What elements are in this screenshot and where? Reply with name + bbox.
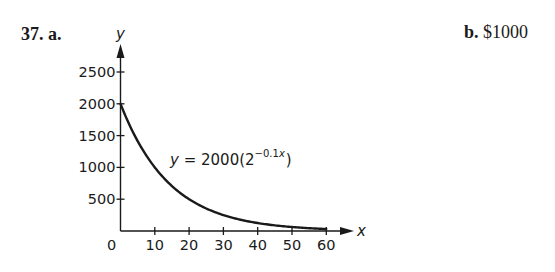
x-axis-arrow-icon xyxy=(340,227,354,235)
equation-label: y = 2000(2−0.1x) xyxy=(169,148,292,169)
y-tick-label: 1000 xyxy=(79,159,116,175)
origin-label: 0 xyxy=(107,237,116,253)
y-axis-ticks: 5001000150020002500 xyxy=(79,64,125,207)
x-tick-label: 20 xyxy=(180,237,198,253)
exponential-decay-chart: y 5001000150020002500 x 0 102030405060 y… xyxy=(0,0,555,272)
y-axis-label: y xyxy=(115,25,126,43)
y-axis: y 5001000150020002500 xyxy=(79,25,126,231)
y-tick-label: 2500 xyxy=(79,64,116,80)
y-tick-label: 1500 xyxy=(79,128,116,144)
y-tick-label: 500 xyxy=(88,191,116,207)
equation-body: = 2000(2 xyxy=(179,151,255,169)
equation-exponent: −0.1x xyxy=(255,148,285,159)
x-tick-label: 10 xyxy=(146,237,164,253)
y-tick-label: 2000 xyxy=(79,96,116,112)
y-axis-arrow-icon xyxy=(117,44,125,58)
x-tick-label: 30 xyxy=(214,237,232,253)
x-tick-label: 40 xyxy=(248,237,266,253)
x-axis-label: x xyxy=(356,222,366,240)
x-axis: x 0 102030405060 xyxy=(107,222,366,253)
x-tick-label: 60 xyxy=(317,237,335,253)
x-tick-label: 50 xyxy=(283,237,301,253)
